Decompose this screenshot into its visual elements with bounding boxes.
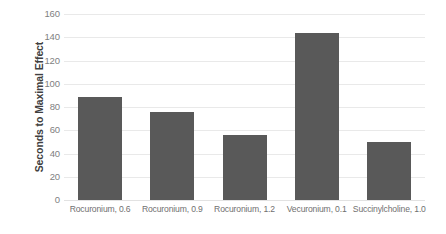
x-category-label: Rocuronium, 1.2 — [208, 203, 280, 215]
x-category-label: Rocuronium, 0.6 — [64, 203, 136, 215]
y-tick-label: 80 — [32, 102, 60, 112]
x-category-label: Succinylcholine, 1.0 — [353, 203, 425, 215]
bar — [295, 33, 339, 200]
y-axis-tick-labels: 160140120100806040200 — [28, 14, 60, 200]
y-tick-label: 100 — [32, 79, 60, 89]
x-axis-category-labels: Rocuronium, 0.6Rocuronium, 0.9Rocuronium… — [64, 203, 425, 219]
x-category-label: Rocuronium, 0.9 — [136, 203, 208, 215]
bar — [367, 142, 411, 200]
y-tick-label: 60 — [32, 125, 60, 135]
bar — [150, 112, 194, 200]
bars-layer — [64, 14, 425, 200]
x-category-label: Vecuronium, 0.1 — [281, 203, 353, 215]
y-tick-label: 160 — [32, 9, 60, 19]
bar — [223, 135, 267, 200]
gridline — [64, 200, 425, 201]
y-tick-label: 140 — [32, 32, 60, 42]
y-tick-label: 0 — [32, 195, 60, 205]
y-tick-label: 120 — [32, 56, 60, 66]
y-tick-label: 40 — [32, 149, 60, 159]
y-tick-label: 20 — [32, 172, 60, 182]
bar — [78, 97, 122, 200]
bar-chart: Seconds to Maximal Effect 16014012010080… — [0, 0, 446, 234]
